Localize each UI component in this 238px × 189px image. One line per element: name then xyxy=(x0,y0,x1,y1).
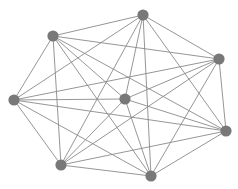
graph-node[interactable] xyxy=(119,93,130,104)
graph-node[interactable] xyxy=(47,30,58,41)
graph-node[interactable] xyxy=(145,170,156,181)
network-graph-figure xyxy=(0,0,238,189)
graph-edge xyxy=(125,99,226,131)
graph-edge xyxy=(125,99,151,176)
graph-node[interactable] xyxy=(55,159,66,170)
graph-canvas xyxy=(0,0,238,189)
graph-edge xyxy=(125,59,219,99)
graph-edge xyxy=(219,59,226,131)
graph-node[interactable] xyxy=(8,94,19,105)
graph-edge xyxy=(53,36,226,131)
graph-edge xyxy=(14,100,61,165)
graph-edge xyxy=(143,15,151,176)
graph-edge xyxy=(151,59,219,176)
graph-node[interactable] xyxy=(220,125,231,136)
graph-edge xyxy=(61,99,125,165)
graph-node[interactable] xyxy=(213,53,224,64)
graph-edge xyxy=(53,36,219,59)
graph-edge xyxy=(125,15,143,99)
graph-edge xyxy=(143,15,226,131)
graph-edge xyxy=(53,15,143,36)
graph-edge xyxy=(151,131,226,176)
graph-edge xyxy=(143,15,219,59)
edge-layer xyxy=(14,15,226,176)
graph-edge xyxy=(14,36,53,100)
graph-edge xyxy=(61,165,151,176)
graph-edge xyxy=(53,36,61,165)
graph-edge xyxy=(14,100,151,176)
graph-node[interactable] xyxy=(137,9,148,20)
graph-edge xyxy=(14,99,125,100)
graph-edge xyxy=(53,36,151,176)
graph-edge xyxy=(61,15,143,165)
